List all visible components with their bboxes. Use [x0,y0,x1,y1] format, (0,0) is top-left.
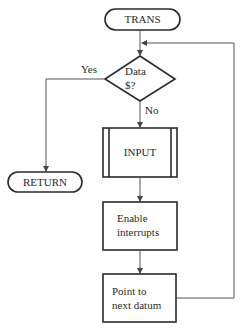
point-label: Point to next datum [112,285,161,312]
flowchart-canvas [0,0,242,329]
point-label-line2: next datum [112,299,161,313]
connector-yes-to-return [46,79,105,171]
enable-label-line1: Enable [117,212,159,226]
decision-label-line1: Data [125,65,146,79]
return-label: RETURN [8,176,82,189]
decision-label: Data $? [125,65,146,92]
enable-label-line2: interrupts [117,226,159,240]
no-label: No [145,104,158,117]
input-label: INPUT [103,146,177,159]
start-label: TRANS [105,13,180,26]
yes-label: Yes [81,63,97,76]
decision-label-line2: $? [125,79,146,93]
enable-label: Enable interrupts [117,212,159,239]
point-label-line1: Point to [112,285,161,299]
